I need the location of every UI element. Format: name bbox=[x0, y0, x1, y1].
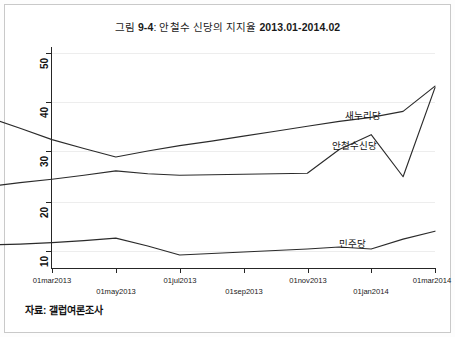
chart-title-range: 2013.01-2014.02 bbox=[259, 21, 340, 33]
gridline-30 bbox=[52, 151, 435, 152]
x-axis-label-01nov2013: 01nov2013 bbox=[275, 276, 341, 285]
gridline-40 bbox=[52, 102, 435, 103]
x-axis-label-01sep2013: 01sep2013 bbox=[211, 287, 277, 296]
x-tick-01may2013 bbox=[116, 268, 117, 273]
x-tick-01mar2014 bbox=[435, 268, 436, 273]
x-tick-01nov2013 bbox=[308, 268, 309, 273]
x-axis-label-01jan2014: 01jan2014 bbox=[338, 287, 404, 296]
chart-title-prefix: 그림 bbox=[115, 21, 138, 33]
y-axis-label-20: 20 bbox=[39, 202, 50, 224]
gridline-50 bbox=[52, 53, 435, 54]
plot-background bbox=[52, 47, 435, 268]
x-axis-label-01jul2013: 01jul2013 bbox=[147, 276, 213, 285]
x-tick-01mar2013 bbox=[52, 268, 53, 273]
x-axis-label-01may2013: 01may2013 bbox=[83, 287, 149, 296]
y-axis-line bbox=[51, 47, 52, 269]
figure-container: 그림 9-4: 안철수 신당의 지지율 2013.01-2014.02 50 4… bbox=[0, 0, 455, 337]
y-axis-label-50: 50 bbox=[39, 53, 50, 75]
source-note: 자료: 갤럽여론조사 bbox=[25, 302, 103, 317]
series-label-saenuri: 새누리당 bbox=[345, 108, 381, 122]
y-axis-label-10: 10 bbox=[39, 251, 50, 273]
y-axis-label-40: 40 bbox=[39, 102, 50, 124]
chart-title: 그림 9-4: 안철수 신당의 지지율 2013.01-2014.02 bbox=[0, 19, 455, 34]
gridline-20 bbox=[52, 202, 435, 203]
plot-area bbox=[52, 47, 435, 268]
chart-title-number: 9-4 bbox=[138, 21, 153, 33]
x-tick-01sep2013 bbox=[244, 268, 245, 273]
y-axis-label-30: 30 bbox=[39, 151, 50, 173]
x-tick-01jul2013 bbox=[180, 268, 181, 273]
series-label-ahn: 안철수신당 bbox=[332, 138, 377, 152]
gridline-10 bbox=[52, 251, 435, 252]
x-tick-01jan2014 bbox=[371, 268, 372, 273]
x-axis-label-01mar2014: 01mar2014 bbox=[399, 276, 455, 285]
series-label-democratic: 민주당 bbox=[339, 236, 366, 250]
chart-title-mid: : 안철수 신당의 지지율 bbox=[153, 21, 259, 33]
x-axis-label-01mar2013: 01mar2013 bbox=[19, 276, 85, 285]
